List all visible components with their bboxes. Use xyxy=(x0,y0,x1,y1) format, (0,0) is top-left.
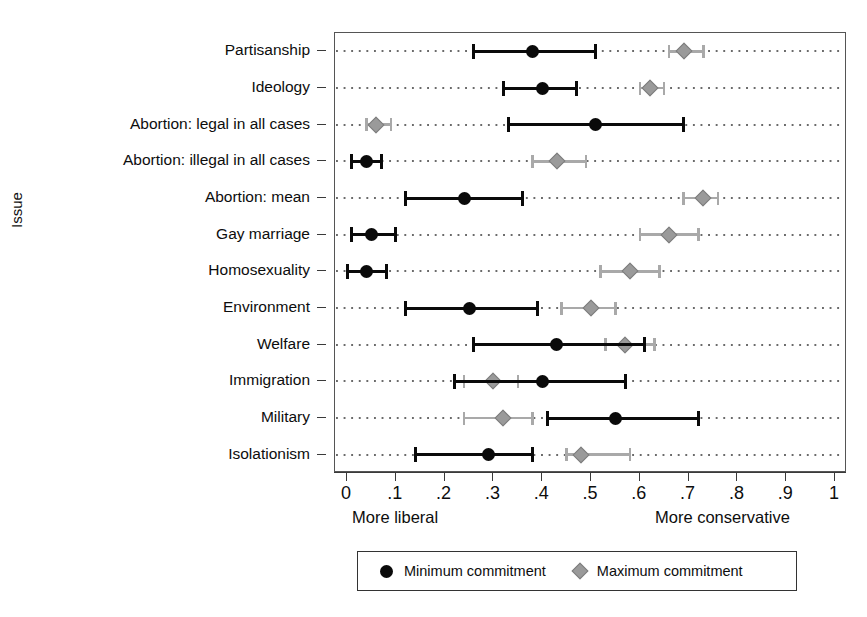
confidence-interval-cap xyxy=(668,45,671,58)
confidence-interval-cap xyxy=(453,374,456,389)
x-axis-tick-label: .6 xyxy=(619,483,659,504)
confidence-interval-cap xyxy=(682,117,685,132)
x-axis-tick-label: .3 xyxy=(472,483,512,504)
x-axis-tick-label: 1 xyxy=(814,483,854,504)
confidence-interval-cap xyxy=(697,411,700,426)
confidence-interval-cap xyxy=(682,192,685,205)
category-label: Welfare xyxy=(257,335,312,353)
data-point-maximum xyxy=(495,410,512,427)
confidence-interval-cap xyxy=(565,448,568,461)
x-axis-tick-label: 0 xyxy=(326,483,366,504)
confidence-interval-cap xyxy=(546,411,549,426)
category-label: Homosexuality xyxy=(208,261,312,279)
category-tick xyxy=(317,344,326,345)
plot-area xyxy=(334,32,846,472)
gridline-dotted xyxy=(336,270,844,272)
legend-item-maximum: Maximum commitment xyxy=(546,552,743,590)
data-point-minimum xyxy=(458,192,471,205)
confidence-interval-cap xyxy=(599,265,602,278)
legend: Minimum commitment Maximum commitment xyxy=(357,551,797,591)
category-label: Military xyxy=(261,408,312,426)
confidence-interval-cap xyxy=(350,227,353,242)
data-point-minimum xyxy=(360,265,373,278)
category-tick xyxy=(317,50,326,51)
gridline-dotted xyxy=(336,160,844,162)
category-tick xyxy=(317,124,326,125)
category-tick xyxy=(317,454,326,455)
category-label: Immigration xyxy=(229,371,312,389)
confidence-interval-cap xyxy=(350,154,353,169)
category-label: Abortion: legal in all cases xyxy=(130,115,312,133)
legend-label-maximum: Maximum commitment xyxy=(597,563,743,579)
confidence-interval-cap xyxy=(663,82,666,95)
x-axis-tick xyxy=(785,472,786,481)
x-axis-left-caption: More liberal xyxy=(352,508,438,527)
x-axis-tick-label: .7 xyxy=(668,483,708,504)
chart-root: Issue PartisanshipIdeologyAbortion: lega… xyxy=(0,0,867,617)
x-axis-tick xyxy=(492,472,493,481)
x-axis-tick xyxy=(688,472,689,481)
category-tick xyxy=(317,87,326,88)
confidence-interval-cap xyxy=(521,191,524,206)
category-tick xyxy=(317,307,326,308)
data-point-minimum xyxy=(463,302,476,315)
confidence-interval-cap xyxy=(658,265,661,278)
confidence-interval-cap xyxy=(414,447,417,462)
category-label-column: PartisanshipIdeologyAbortion: legal in a… xyxy=(0,32,326,472)
confidence-interval-cap xyxy=(531,155,534,168)
confidence-interval-cap xyxy=(575,81,578,96)
x-axis-tick xyxy=(590,472,591,481)
gridline-dotted xyxy=(336,234,844,236)
confidence-interval-cap xyxy=(653,338,656,351)
data-point-minimum xyxy=(536,82,549,95)
x-axis-tick xyxy=(639,472,640,481)
data-point-maximum xyxy=(675,43,692,60)
data-point-maximum xyxy=(661,226,678,243)
category-tick xyxy=(317,380,326,381)
category-label: Abortion: mean xyxy=(205,188,312,206)
confidence-interval-cap xyxy=(404,191,407,206)
data-point-minimum xyxy=(365,228,378,241)
x-axis-tick-label: .8 xyxy=(716,483,756,504)
x-axis-tick xyxy=(444,472,445,481)
data-point-maximum xyxy=(641,80,658,97)
confidence-interval-cap xyxy=(463,412,466,425)
category-tick xyxy=(317,197,326,198)
category-tick xyxy=(317,234,326,235)
data-point-minimum xyxy=(609,412,622,425)
category-tick xyxy=(317,270,326,271)
confidence-interval-cap xyxy=(614,302,617,315)
confidence-interval-cap xyxy=(717,192,720,205)
legend-item-minimum: Minimum commitment xyxy=(358,552,546,590)
data-point-maximum xyxy=(583,300,600,317)
gridline-dotted xyxy=(336,87,844,89)
x-axis-tick xyxy=(541,472,542,481)
confidence-interval-cap xyxy=(594,44,597,59)
x-axis-tick xyxy=(834,472,835,481)
x-axis-tick-label: .5 xyxy=(570,483,610,504)
data-point-maximum xyxy=(548,153,565,170)
x-axis-tick-label: .1 xyxy=(375,483,415,504)
x-axis-tick-label: .4 xyxy=(521,483,561,504)
confidence-interval-cap xyxy=(531,412,534,425)
category-label: Abortion: illegal in all cases xyxy=(123,151,312,169)
confidence-interval-cap xyxy=(472,337,475,352)
x-axis-tick xyxy=(395,472,396,481)
x-axis-tick-label: .9 xyxy=(765,483,805,504)
confidence-interval-cap xyxy=(394,227,397,242)
x-axis-right-caption: More conservative xyxy=(655,508,790,527)
confidence-interval-cap xyxy=(629,448,632,461)
legend-label-minimum: Minimum commitment xyxy=(404,563,546,579)
x-axis-tick xyxy=(736,472,737,481)
category-label: Isolationism xyxy=(228,445,312,463)
confidence-interval-cap xyxy=(404,301,407,316)
category-tick xyxy=(317,417,326,418)
confidence-interval-cap xyxy=(472,44,475,59)
confidence-interval-cap xyxy=(585,155,588,168)
confidence-interval-cap xyxy=(702,45,705,58)
category-label: Partisanship xyxy=(225,41,312,59)
confidence-interval-cap xyxy=(390,118,393,131)
confidence-interval-cap xyxy=(624,374,627,389)
data-point-maximum xyxy=(622,263,639,280)
data-point-minimum xyxy=(550,338,563,351)
